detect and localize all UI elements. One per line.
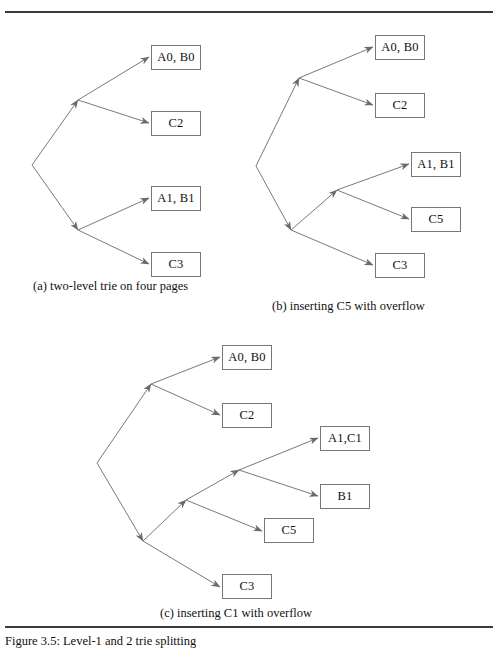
panel-a-edges — [32, 57, 149, 264]
panel-c-caption: (c) inserting C1 with overflow — [160, 607, 312, 621]
page-box-label: A1,C1 — [328, 432, 362, 445]
trie-edge — [186, 500, 262, 531]
trie-edge — [256, 166, 291, 230]
trie-edge — [239, 470, 318, 496]
page-box-label: C3 — [393, 259, 408, 272]
panel-c-page-box: A1,C1 — [320, 426, 370, 451]
page-box-label: C5 — [282, 524, 297, 537]
page-box-label: C2 — [169, 117, 184, 130]
panel-a-caption: (a) two-level trie on four pages — [33, 280, 188, 294]
page-box-label: C3 — [240, 580, 255, 593]
panel-c-edges — [97, 357, 318, 587]
trie-edge — [337, 164, 409, 190]
panel-b-caption: (b) inserting C5 with overflow — [272, 300, 425, 314]
page-box-label: B1 — [338, 490, 353, 503]
trie-edge — [239, 438, 318, 470]
trie-edge — [32, 100, 78, 165]
trie-edge — [78, 198, 149, 230]
page-box-label: A0, B0 — [228, 351, 265, 364]
panel-b-page-box: C5 — [411, 207, 461, 232]
panel-b-page-box: C3 — [375, 253, 425, 278]
trie-edge — [186, 470, 239, 500]
panel-c-page-box: C5 — [264, 518, 314, 543]
page-box-label: A1, B1 — [157, 192, 194, 205]
panel-b-page-box: C2 — [375, 93, 425, 118]
panel-a-page-box: C2 — [151, 111, 201, 136]
panel-c-page-box: C2 — [222, 403, 272, 428]
panel-b-page-box: A1, B1 — [411, 152, 461, 177]
trie-edge — [337, 190, 409, 219]
panel-c-page-box: A0, B0 — [222, 345, 272, 370]
trie-edge — [151, 357, 220, 384]
trie-edge — [78, 100, 149, 123]
trie-edge — [299, 78, 373, 105]
panel-a-page-box: A1, B1 — [151, 186, 201, 211]
panel-c-page-box: B1 — [320, 484, 370, 509]
trie-edge — [78, 230, 149, 264]
trie-edge — [78, 57, 149, 100]
panel-c-page-box: C3 — [222, 574, 272, 599]
trie-edge — [143, 500, 186, 541]
trie-edge — [299, 47, 373, 78]
trie-edge — [143, 541, 220, 587]
page-box-label: A1, B1 — [417, 158, 454, 171]
figure-root: A0, B0C2A1, B1C3A0, B0C2A1, B1C5C3A0, B0… — [0, 0, 498, 650]
trie-edge — [97, 463, 143, 541]
panel-a-page-box: C3 — [151, 252, 201, 277]
page-box-label: C5 — [429, 213, 444, 226]
figure-caption: Figure 3.5: Level-1 and 2 trie splitting — [5, 634, 196, 650]
page-box-label: C3 — [169, 258, 184, 271]
trie-edge — [151, 384, 220, 415]
trie-edge — [291, 190, 337, 230]
panel-a-page-box: A0, B0 — [151, 45, 201, 70]
page-box-label: A0, B0 — [381, 41, 418, 54]
page-box-label: C2 — [393, 99, 408, 112]
figure-bottom-rule — [5, 626, 493, 628]
trie-edge — [32, 165, 78, 230]
panel-b-page-box: A0, B0 — [375, 35, 425, 60]
page-box-label: C2 — [240, 409, 255, 422]
trie-edge — [97, 384, 151, 463]
trie-edge — [291, 230, 373, 265]
panel-b-edges — [256, 47, 409, 265]
trie-edge — [256, 78, 299, 166]
page-box-label: A0, B0 — [157, 51, 194, 64]
